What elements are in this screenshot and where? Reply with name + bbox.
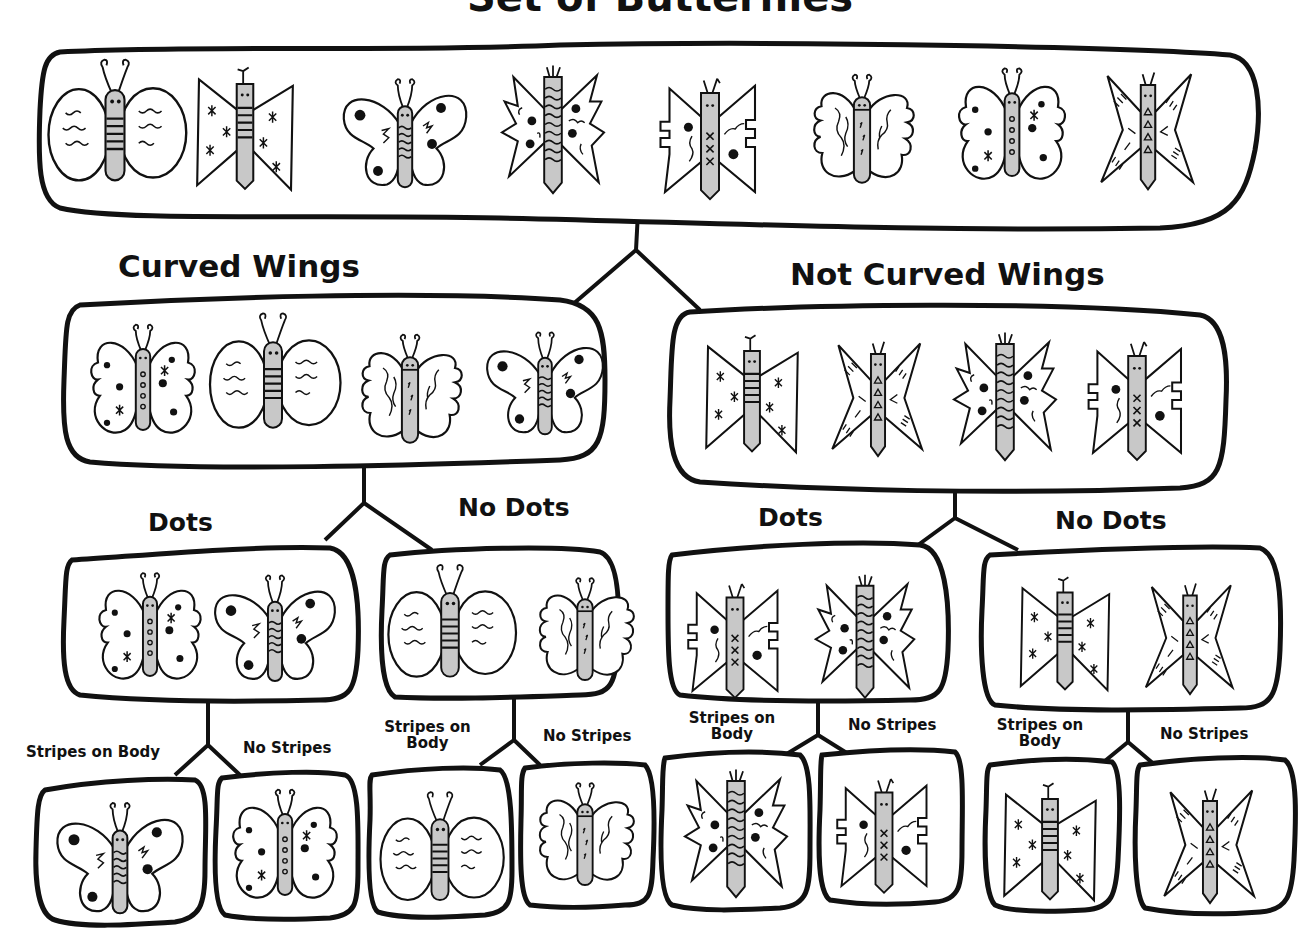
butterfly-notched-x [837,779,926,893]
butterfly-notched-x [688,584,777,698]
label-curved-no-dots: No Dots [458,495,570,521]
label-no-stripes-1: No Stripes [243,741,331,757]
butterfly-notched-x [1089,342,1181,460]
label-no-stripes-3: No Stripes [848,718,936,734]
label-line-2: Body [990,734,1090,750]
classification-tree [0,0,1307,942]
label-curved-wings: Curved Wings [118,250,360,283]
label-not-curved-no-dots: No Dots [1055,508,1167,534]
butterfly-notched-x [661,79,756,200]
label-no-stripes-2: No Stripes [543,729,631,745]
label-stripes-on-body-4: Stripes on Body [990,718,1090,750]
label-not-curved-dots: Dots [758,505,823,531]
label-not-curved-wings: Not Curved Wings [790,258,1105,291]
label-no-stripes-4: No Stripes [1160,727,1248,743]
label-stripes-on-body-1: Stripes on Body [26,745,160,761]
label-stripes-on-body-2: Stripes on Body [380,720,475,752]
label-curved-dots: Dots [148,510,213,536]
label-line-2: Body [380,736,475,752]
label-line-2: Body [682,727,782,743]
label-stripes-on-body-3: Stripes on Body [682,711,782,743]
